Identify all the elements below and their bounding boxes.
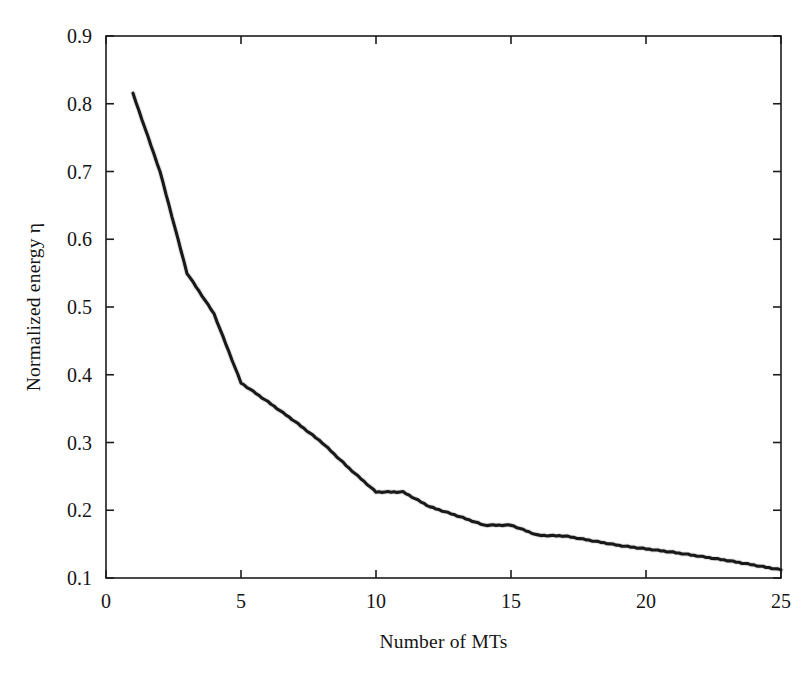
x-tick-label: 25 [771,590,791,612]
x-tick-label: 10 [366,590,386,612]
y-tick-label: 0.2 [67,499,92,521]
y-tick-label: 0.5 [67,296,92,318]
normalized-energy-line-chart: 0.10.20.30.40.50.60.70.80.9 0510152025 N… [0,0,810,675]
y-axis-tick-labels: 0.10.20.30.40.50.60.70.80.9 [67,25,92,589]
y-tick-label: 0.3 [67,432,92,454]
x-axis-label: Number of MTs [380,631,508,652]
y-tick-label: 0.8 [67,93,92,115]
y-axis-label: Normalized energy η [23,223,44,392]
y-tick-label: 0.6 [67,228,92,250]
x-tick-label: 5 [236,590,246,612]
x-tick-label: 20 [636,590,656,612]
y-tick-label: 0.9 [67,25,92,47]
chart-figure: 0.10.20.30.40.50.60.70.80.9 0510152025 N… [0,0,810,675]
x-tick-label: 15 [501,590,521,612]
y-tick-label: 0.4 [67,364,92,386]
x-tick-label: 0 [101,590,111,612]
y-tick-label: 0.7 [67,161,92,183]
y-tick-label: 0.1 [67,567,92,589]
